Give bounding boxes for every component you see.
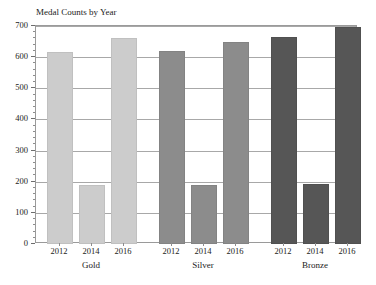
- x-tick-mark: [91, 243, 92, 246]
- y-tick-label-500: 500: [15, 83, 28, 92]
- y-tick-label-600: 600: [15, 52, 28, 61]
- x-tick-mark: [203, 243, 204, 246]
- y-tick-label-200: 200: [15, 176, 28, 185]
- x-tick-mark: [235, 243, 236, 246]
- gridline-300: [36, 151, 356, 152]
- bar-silver-2014[interactable]: [191, 185, 217, 244]
- bar-gold-2012[interactable]: [47, 52, 73, 244]
- plot-frame: [35, 25, 357, 243]
- x-tick-label-bronze-2016: 2016: [327, 246, 367, 256]
- y-tick-label-300: 300: [15, 145, 28, 154]
- bar-silver-2016[interactable]: [223, 42, 249, 244]
- group-label-gold: Gold: [56, 260, 126, 271]
- x-tick-mark: [59, 243, 60, 246]
- x-tick-mark: [283, 243, 284, 246]
- y-axis: 0100200300400500600700: [0, 25, 35, 243]
- bar-bronze-2012[interactable]: [271, 37, 297, 244]
- x-axis: 201220142016Gold201220142016Silver201220…: [35, 243, 357, 285]
- x-tick-mark: [315, 243, 316, 246]
- bar-bronze-2014[interactable]: [303, 184, 329, 244]
- bar-chart: Medal Counts by Year 0100200300400500600…: [0, 0, 376, 285]
- bar-gold-2014[interactable]: [79, 185, 105, 244]
- bar-gold-2016[interactable]: [111, 38, 137, 244]
- x-tick-mark: [347, 243, 348, 246]
- y-tick-label-700: 700: [15, 21, 28, 30]
- group-label-silver: Silver: [168, 260, 238, 271]
- plot-area: [36, 26, 356, 242]
- gridline-700: [36, 26, 356, 27]
- x-tick-mark: [123, 243, 124, 246]
- y-tick-label-100: 100: [15, 207, 28, 216]
- bar-bronze-2016[interactable]: [335, 27, 361, 244]
- x-tick-label-gold-2016: 2016: [103, 246, 143, 256]
- gridline-400: [36, 119, 356, 120]
- x-tick-mark: [171, 243, 172, 246]
- y-tick-label-0: 0: [24, 239, 28, 248]
- bar-silver-2012[interactable]: [159, 51, 185, 244]
- gridline-200: [36, 182, 356, 183]
- x-tick-label-silver-2016: 2016: [215, 246, 255, 256]
- gridline-600: [36, 57, 356, 58]
- y-tick-label-400: 400: [15, 114, 28, 123]
- chart-title: Medal Counts by Year: [36, 7, 117, 18]
- gridline-500: [36, 88, 356, 89]
- group-label-bronze: Bronze: [280, 260, 350, 271]
